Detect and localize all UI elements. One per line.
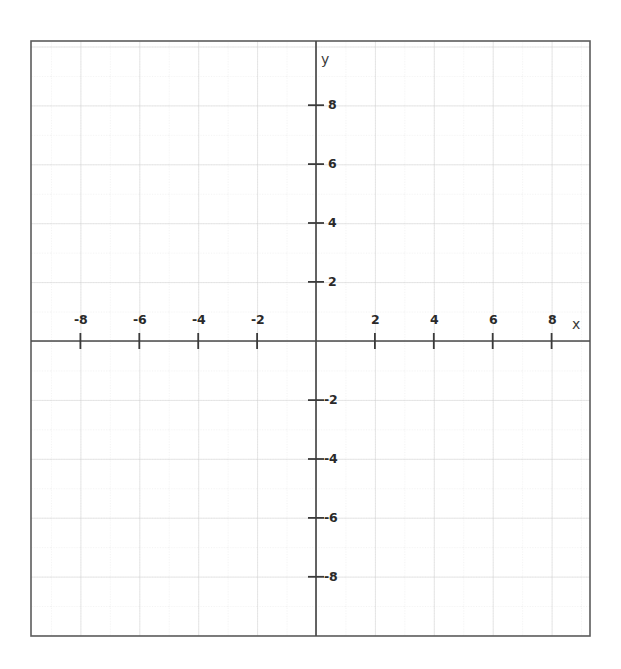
coordinate-plane-graph: -8 -6 -4 -2 2 4 6 8 8 6 4 2 -2 -4 -6 -8 …: [0, 0, 621, 669]
y-tick-label--6: -6: [324, 512, 338, 525]
y-tick-label--8: -8: [324, 571, 338, 584]
y-tick-label--2: -2: [324, 394, 338, 407]
graph-grid-svg: [0, 0, 621, 669]
y-tick-label-2: 2: [328, 276, 337, 289]
x-tick-label--2: -2: [251, 314, 265, 327]
y-axis-label: y: [321, 52, 329, 66]
x-tick-label--8: -8: [74, 314, 88, 327]
x-tick-label-4: 4: [430, 314, 439, 327]
x-tick-label--4: -4: [192, 314, 206, 327]
x-tick-label-6: 6: [489, 314, 498, 327]
y-tick-label--4: -4: [324, 453, 338, 466]
y-tick-label-6: 6: [328, 158, 337, 171]
major-gridlines: [31, 41, 590, 636]
x-axis-label: x: [572, 317, 580, 331]
y-tick-label-8: 8: [328, 99, 337, 112]
x-tick-label-2: 2: [371, 314, 380, 327]
x-tick-label--6: -6: [133, 314, 147, 327]
x-tick-label-8: 8: [548, 314, 557, 327]
y-tick-label-4: 4: [328, 217, 337, 230]
